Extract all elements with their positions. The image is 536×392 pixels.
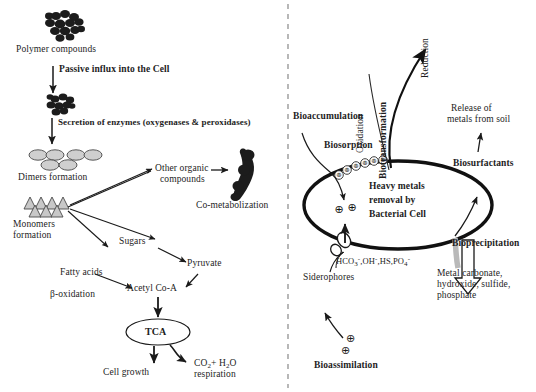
arrow-pyruvate-to-acetyl: [186, 274, 198, 287]
co-metabolization-label: Co-metabolization: [196, 200, 268, 211]
bioassimilation-ion-upper: ⊕: [346, 333, 355, 344]
arrow-tca-to-respiration: [170, 345, 186, 362]
diagram-artwork: ⊕⊕ ⊕⊕ ⊕⊕ ⊕ ⊕: [0, 0, 536, 392]
reduction-label: Reduction: [420, 38, 431, 78]
oxidation-label: Oxidation: [355, 114, 366, 153]
fatty-acids-label: Fatty acids: [60, 267, 103, 278]
cell-title-line2: removal by: [369, 195, 415, 206]
dimers-shapes: [29, 150, 102, 170]
bioassimilation-label: Bioassimilation: [314, 360, 378, 371]
internalized-polymer-cluster: [47, 93, 76, 115]
respiration-label: respiration: [194, 369, 236, 380]
cell-title-line1: Heavy metals: [369, 181, 425, 192]
svg-text:⊕: ⊕: [334, 203, 343, 216]
polymer-compounds-label: Polymer compounds: [16, 44, 96, 55]
monomers-shapes: [24, 197, 69, 217]
sugars-label: Sugars: [119, 236, 145, 247]
acetyl-coa-label: Acetyl Co-A: [127, 283, 177, 294]
arrow-bioassimilation: [325, 313, 343, 338]
figure-canvas: ⊕⊕ ⊕⊕ ⊕⊕ ⊕ ⊕ Polymer compounds Passive i…: [0, 0, 536, 392]
svg-text:⊕: ⊕: [362, 159, 367, 167]
monomers-formation-line2: formation: [13, 230, 51, 241]
precip-product-line1: Metal carbonate,: [437, 268, 502, 279]
monomers-formation-line1: Monomers: [13, 219, 55, 230]
biosurfactants-label: Biosurfactants: [453, 158, 514, 169]
arrow-sugars-to-pyruvate: [158, 248, 186, 262]
svg-text:⊕: ⊕: [371, 157, 376, 165]
precip-product-line2: hydroxide, sulfide,: [437, 279, 510, 290]
tca-label: TCA: [145, 326, 166, 337]
arrow-to-fatty-acids: [68, 211, 108, 247]
secretion-enzymes-label: Secretion of enzymes (oxygenases & perox…: [58, 117, 251, 128]
dimers-formation-label: Dimers formation: [18, 172, 87, 183]
pyruvate-label: Pyruvate: [187, 258, 222, 269]
other-organic-line2: compounds: [160, 174, 205, 185]
release-metals-line2: metals from soil: [447, 114, 510, 125]
biotransformation-label: Biotransformation: [378, 102, 389, 179]
polymer-compound-cluster: [45, 10, 85, 42]
bioaccumulation-label: Bioaccumulation: [293, 111, 363, 122]
bioprecipitation-label: Bioprecipitation: [452, 238, 519, 249]
passive-influx-label: Passive influx into the Cell: [59, 64, 169, 75]
cell-title-line3: Bacterial Cell: [369, 209, 426, 220]
svg-text:⊕: ⊕: [347, 201, 356, 214]
other-organic-line1: Other organic: [155, 163, 209, 174]
precip-product-line3: phosphate: [437, 290, 476, 301]
siderophores-label: Siderophores: [303, 272, 354, 283]
bioassimilation-ion-lower: ⊕: [341, 345, 350, 356]
arrow-release-metals: [478, 133, 481, 152]
cell-growth-label: Cell growth: [103, 367, 149, 378]
svg-text:⊕: ⊕: [336, 171, 341, 179]
release-metals-line1: Release of: [451, 103, 492, 114]
beta-oxidation-label: β-oxidation: [50, 289, 95, 300]
ligand-formula: HCO3-,OH-,HS,PO4-: [336, 254, 410, 270]
svg-text:⊕: ⊕: [353, 162, 358, 170]
co-metabolization-bacterium: [231, 149, 255, 201]
svg-text:⊕: ⊕: [344, 166, 349, 174]
